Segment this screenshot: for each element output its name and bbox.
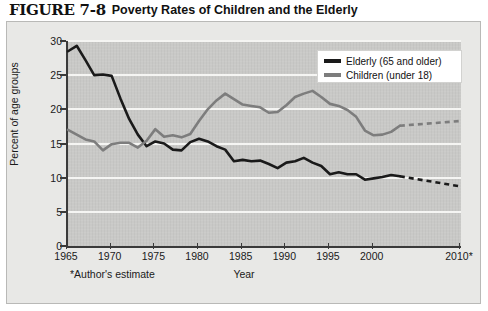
legend-swatch-elderly-icon: [324, 59, 341, 63]
x-axis-tick-mark: [284, 243, 285, 249]
legend-label-children: Children (under 18): [346, 70, 432, 81]
x-axis-tick-mark: [459, 243, 460, 249]
y-axis-tick-mark: [60, 40, 66, 42]
x-axis-tick-mark: [110, 243, 111, 249]
legend-item-elderly: Elderly (65 and older): [324, 54, 456, 68]
y-axis-tick-label: 10: [36, 173, 62, 183]
legend-item-children: Children (under 18): [324, 68, 456, 82]
x-axis-tick-mark: [241, 243, 242, 249]
x-axis-tick-label: 2000: [360, 250, 383, 262]
x-axis-ticks: 196519701975198019851990199520002010*: [0, 250, 488, 266]
y-axis-tick-label: 15: [36, 139, 62, 149]
legend-label-elderly: Elderly (65 and older): [346, 56, 442, 67]
x-axis-tick-label: 1995: [316, 250, 339, 262]
x-axis-tick-mark: [153, 243, 154, 249]
figure-container: FIGURE 7-8 Poverty Rates of Children and…: [0, 0, 488, 311]
x-axis-tick-label: 1985: [229, 250, 252, 262]
y-axis-tick-mark: [60, 143, 66, 145]
x-axis-tick-label: 1975: [142, 250, 165, 262]
x-axis-tick-label: 1965: [54, 250, 77, 262]
y-axis-tick-mark: [60, 108, 66, 110]
x-axis-tick-mark: [197, 243, 198, 249]
series-projection-line: [400, 121, 461, 126]
figure-title-bar: FIGURE 7-8 Poverty Rates of Children and…: [0, 0, 488, 20]
y-axis-tick-label: 5: [36, 207, 62, 217]
x-axis-tick-mark: [66, 243, 67, 249]
y-axis-tick-mark: [60, 211, 66, 213]
x-axis-tick-mark: [372, 243, 373, 249]
series-projection-line: [400, 176, 461, 186]
chart-legend: Elderly (65 and older) Children (under 1…: [317, 50, 462, 83]
x-axis-tick-label: 1980: [185, 250, 208, 262]
y-axis-tick-label: 30: [36, 36, 62, 46]
footnote: *Author's estimate: [70, 268, 155, 280]
x-axis-tick-label: 1990: [273, 250, 296, 262]
x-axis-tick-label: 1970: [98, 250, 121, 262]
series-line: [68, 91, 400, 150]
x-axis-tick-label: 2010*: [445, 250, 472, 262]
y-axis-tick-mark: [60, 74, 66, 76]
y-axis-tick-mark: [60, 177, 66, 179]
page-title: Poverty Rates of Children and the Elderl…: [112, 3, 358, 17]
x-axis-tick-mark: [328, 243, 329, 249]
y-axis-tick-label: 20: [36, 104, 62, 114]
legend-swatch-children-icon: [324, 73, 341, 77]
y-axis-tick-label: 25: [36, 70, 62, 80]
y-axis-label: Percent of age groups: [8, 34, 20, 194]
